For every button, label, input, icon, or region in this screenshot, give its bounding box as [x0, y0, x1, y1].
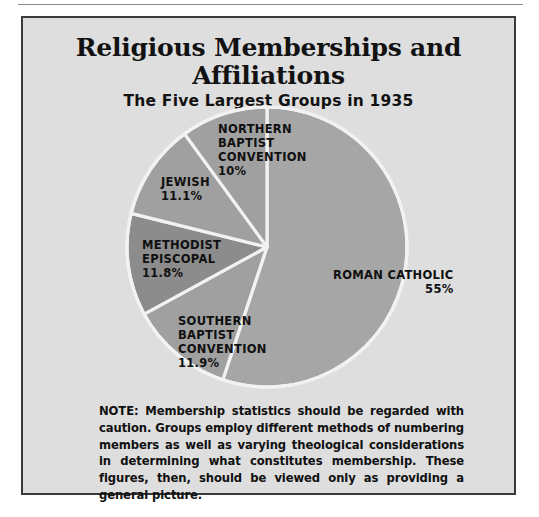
slice-label-southern-baptist: SOUTHERN BAPTIST CONVENTION 11.9%	[178, 314, 267, 370]
slice-label-line: CONVENTION	[178, 342, 267, 356]
slice-percent-southern-baptist: 11.9%	[178, 356, 267, 370]
figure-panel: Religious Memberships and Affiliations T…	[21, 16, 516, 495]
slice-percent-roman-catholic: 55%	[333, 282, 454, 296]
slice-label-roman-catholic: ROMAN CATHOLIC 55%	[333, 268, 454, 296]
slice-label-line: ROMAN CATHOLIC	[333, 268, 454, 282]
slice-label-methodist-episcopal: METHODIST EPISCOPAL 11.8%	[142, 238, 221, 280]
slice-label-line: JEWISH	[161, 175, 210, 189]
top-divider-rule	[18, 4, 523, 5]
slice-percent-jewish: 11.1%	[161, 189, 210, 203]
figure-note: NOTE: Membership statistics should be re…	[99, 403, 464, 504]
slice-label-line: EPISCOPAL	[142, 252, 221, 266]
slice-label-line: BAPTIST	[178, 328, 267, 342]
slice-label-jewish: JEWISH 11.1%	[161, 175, 210, 203]
slice-label-line: NORTHERN	[218, 122, 307, 136]
slice-label-line: CONVENTION	[218, 150, 307, 164]
slice-label-northern-baptist: NORTHERN BAPTIST CONVENTION 10%	[218, 122, 307, 178]
slice-label-line: BAPTIST	[218, 136, 307, 150]
slice-percent-northern-baptist: 10%	[218, 164, 307, 178]
slice-percent-methodist-episcopal: 11.8%	[142, 266, 221, 280]
slice-label-line: SOUTHERN	[178, 314, 267, 328]
slice-label-line: METHODIST	[142, 238, 221, 252]
